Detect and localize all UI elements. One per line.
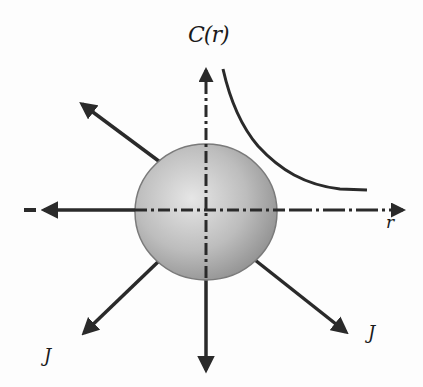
diffusion-diagram: C(r) r J J: [0, 0, 423, 387]
concentration-label: C(r): [188, 22, 229, 47]
flux-arrow-down-right: [255, 260, 346, 332]
flux-arrow-up-left: [82, 104, 160, 162]
flux-label-right: J: [368, 322, 375, 343]
radial-axis-label: r: [386, 212, 394, 232]
flux-label-left: J: [44, 345, 51, 366]
diagram-graphic: [0, 0, 423, 387]
flux-arrow-down-left: [84, 260, 160, 333]
